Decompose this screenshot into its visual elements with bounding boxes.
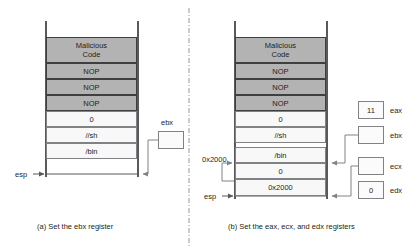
esp-label-b: esp: [204, 192, 216, 201]
stack-cell-label: //sh: [274, 131, 286, 140]
esp-label-a: esp: [15, 170, 27, 179]
stack-cell-bin-a: /bin: [46, 143, 137, 159]
stack-cell-slashsh-b: //sh: [235, 127, 326, 143]
stack-cell-label: NOP: [272, 99, 288, 108]
address-bracket-b: [222, 163, 234, 181]
stack-cell-bin-b: /bin: [235, 147, 326, 163]
register-box-ecx-b: [358, 157, 384, 175]
stack-rail-right-a: [137, 21, 139, 177]
caption-panel-a: (a) Set the ebx register: [37, 222, 113, 231]
ebx-connector-a: [143, 140, 158, 174]
stack-cell-address-b: 0x2000: [235, 179, 326, 196]
register-value: 11: [367, 106, 375, 115]
stack-cell-label: NOP: [272, 67, 288, 76]
ebx-connector-b: [332, 135, 358, 163]
stack-cell-nop-b-1: NOP: [235, 63, 326, 79]
register-label-edx-b: edx: [390, 186, 402, 195]
stack-rail-right-b: [326, 21, 328, 199]
stack-cell-zero-b-1: 0: [235, 111, 326, 127]
stack-cell-label: 0x2000: [268, 183, 293, 192]
address-annotation-b: 0x2000: [202, 155, 227, 164]
stack-cell-label: 0: [278, 115, 282, 124]
stack-cell-nop-a-1: NOP: [46, 63, 137, 79]
stack-cell-label: //sh: [85, 131, 97, 140]
register-box-edx-b: 0: [358, 181, 384, 199]
stack-cell-label: NOP: [83, 83, 99, 92]
stack-cell-label: Code: [272, 50, 290, 59]
stack-cell-slashsh-a: //sh: [46, 127, 137, 143]
stack-cell-malicious-code-a: Malicious Code: [46, 37, 137, 63]
register-value: 0: [369, 186, 373, 195]
stack-cell-malicious-code-b: Malicious Code: [235, 37, 326, 63]
register-box-eax-b: 11: [358, 101, 384, 119]
stack-cell-nop-b-3: NOP: [235, 95, 326, 111]
stack-cell-zero-b-2: 0: [235, 163, 326, 179]
stack-cell-label: /bin: [85, 147, 97, 156]
register-label-ecx-b: ecx: [390, 162, 402, 171]
stack-cell-label: Malicious: [76, 41, 107, 50]
register-box-ebx-b: [358, 126, 384, 144]
register-label-ebx-b: ebx: [390, 131, 402, 140]
register-box-ebx-a: [158, 131, 184, 149]
stack-cell-label: NOP: [83, 99, 99, 108]
stack-cell-label: 0: [89, 115, 93, 124]
stack-cell-zero-a: 0: [46, 111, 137, 127]
stack-cell-label: /bin: [274, 151, 286, 160]
register-label-ebx-a: ebx: [161, 118, 173, 127]
stack-cell-label: Malicious: [265, 41, 296, 50]
stack-cell-label: 0: [278, 167, 282, 176]
figure-root: Malicious Code NOP NOP NOP 0 //sh /bin e…: [0, 0, 420, 252]
caption-panel-b: (b) Set the eax, ecx, and edx registers: [228, 222, 355, 231]
stack-cell-label: Code: [83, 50, 101, 59]
stack-cell-nop-a-3: NOP: [46, 95, 137, 111]
stack-cell-label: NOP: [272, 83, 288, 92]
stack-cell-nop-a-2: NOP: [46, 79, 137, 95]
stack-cell-nop-b-2: NOP: [235, 79, 326, 95]
register-label-eax-b: eax: [390, 106, 402, 115]
stack-cell-label: NOP: [83, 67, 99, 76]
ecx-connector-b: [332, 166, 358, 196]
